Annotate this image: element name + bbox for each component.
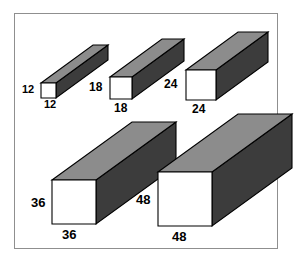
prism-front-face bbox=[186, 70, 216, 100]
dimension-label-width-18: 18 bbox=[114, 102, 127, 114]
dimension-label-width-48: 48 bbox=[172, 230, 186, 243]
prism-front-face bbox=[41, 83, 56, 98]
prism-24 bbox=[186, 32, 268, 100]
dimension-label-height-24: 24 bbox=[164, 78, 177, 90]
prism-front-face bbox=[52, 180, 96, 224]
dimension-label-height-18: 18 bbox=[89, 81, 102, 93]
figure-root: 12121818242436364848 bbox=[0, 0, 296, 265]
prism-front-face bbox=[158, 172, 212, 226]
dimension-label-width-36: 36 bbox=[62, 228, 76, 241]
dimension-label-width-24: 24 bbox=[192, 103, 205, 115]
dimension-label-height-12: 12 bbox=[22, 84, 34, 95]
prism-canvas bbox=[0, 0, 296, 265]
prism-front-face bbox=[110, 77, 132, 99]
prism-36 bbox=[52, 122, 176, 224]
dimension-label-height-48: 48 bbox=[136, 193, 150, 206]
prism-48 bbox=[158, 114, 292, 226]
dimension-label-height-36: 36 bbox=[31, 196, 45, 209]
dimension-label-width-12: 12 bbox=[44, 99, 56, 110]
